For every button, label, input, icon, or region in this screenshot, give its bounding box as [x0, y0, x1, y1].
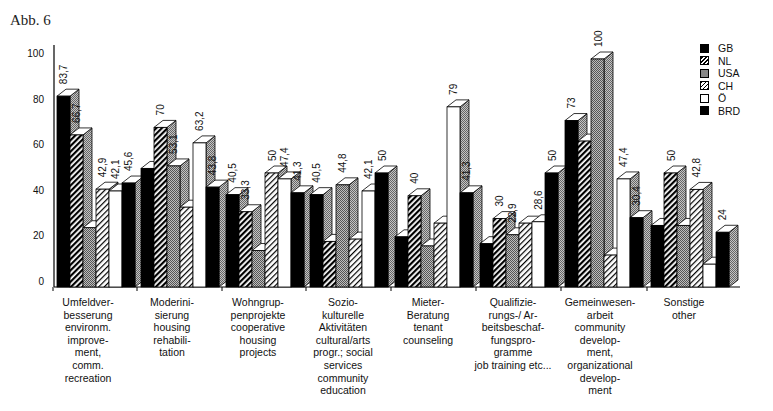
- data-label: 33,3: [241, 180, 252, 200]
- data-label: 45,6: [124, 151, 135, 171]
- data-label: 50: [267, 149, 278, 161]
- legend-item-oe: Ö: [700, 92, 740, 105]
- bar-usa: 100: [591, 30, 613, 287]
- data-label: 50: [377, 149, 388, 161]
- category-label: Qualifizie- rungs-/ Ar- beitsbeschaf- fu…: [463, 296, 563, 372]
- bar-group: 5042,824: [651, 149, 738, 287]
- bar-group: 407941,3: [395, 83, 482, 287]
- data-label: 47,4: [280, 147, 291, 167]
- bar-group: 40,544,842,150: [310, 149, 397, 287]
- data-label: 30,4: [632, 186, 643, 206]
- data-label: 73: [567, 97, 578, 109]
- legend-swatch-usa: [700, 69, 709, 78]
- y-tick-label: 80: [33, 94, 45, 105]
- y-tick-label: 60: [33, 139, 45, 150]
- category-label: Sonstige other: [634, 296, 734, 321]
- data-label: 70: [156, 104, 167, 116]
- data-label: 79: [449, 83, 460, 95]
- category-label: Moderini- sierung housing rehabili- tati…: [122, 296, 222, 359]
- data-label: 30: [495, 195, 506, 207]
- legend-item-nl: NL: [700, 55, 740, 68]
- legend-swatch-brd: [700, 106, 709, 115]
- data-label: 50: [666, 149, 677, 161]
- legend-item-ch: CH: [700, 80, 740, 93]
- data-label: 63,2: [195, 111, 206, 131]
- data-label: 53,1: [169, 134, 180, 154]
- bar-group: 40,533,35047,441,3: [226, 147, 313, 287]
- bar-group: 7053,163,243,8: [141, 104, 228, 287]
- bar-group: 83,766,742,942,145,6: [57, 64, 144, 287]
- y-tick-label: 40: [33, 185, 45, 196]
- y-tick-label: 20: [33, 230, 45, 241]
- data-label: 40,5: [228, 163, 239, 183]
- data-label: 44,8: [338, 153, 349, 173]
- bar-brd: 50: [545, 149, 567, 287]
- data-label: 42,1: [364, 159, 375, 179]
- data-label: 42,1: [111, 159, 122, 179]
- legend-item-brd: BRD: [700, 105, 740, 118]
- bars: 83,766,742,942,145,67053,163,243,840,533…: [57, 30, 738, 287]
- data-label: 42,9: [98, 157, 109, 177]
- bar-group: 7310047,430,4: [565, 30, 652, 287]
- bar-brd: 24: [716, 209, 738, 287]
- data-label: 83,7: [59, 64, 70, 84]
- data-label: 28,6: [534, 190, 545, 210]
- bar-brd: 41,3: [460, 161, 482, 287]
- legend-item-gb: GB: [700, 42, 740, 55]
- legend-swatch-ch: [700, 81, 709, 90]
- legend-swatch-gb: [700, 44, 709, 53]
- bar-group: 3022,928,650: [480, 149, 567, 287]
- data-label: 100: [593, 30, 604, 47]
- legend-item-usa: USA: [700, 67, 740, 80]
- data-label: 42,8: [692, 158, 703, 178]
- data-label: 41,3: [462, 161, 473, 181]
- legend: GB NL USA CH Ö BRD: [700, 42, 740, 117]
- data-label: 66,7: [72, 103, 83, 123]
- data-label: 24: [718, 209, 729, 221]
- legend-swatch-nl: [700, 56, 709, 65]
- data-label: 50: [547, 149, 558, 161]
- bar-brd: 30,4: [630, 186, 652, 287]
- data-label: 43,8: [208, 155, 219, 175]
- bar-brd: 50: [375, 149, 397, 287]
- legend-swatch-oe: [700, 94, 709, 103]
- data-label: 40: [410, 172, 421, 184]
- data-label: 47,4: [619, 147, 630, 167]
- y-tick-label: 100: [27, 48, 44, 59]
- y-tick-label: 0: [38, 276, 44, 287]
- data-label: 40,5: [312, 163, 323, 183]
- data-label: 41,3: [293, 161, 304, 181]
- bar-brd: 43,8: [206, 155, 228, 287]
- data-label: 22,9: [508, 203, 519, 223]
